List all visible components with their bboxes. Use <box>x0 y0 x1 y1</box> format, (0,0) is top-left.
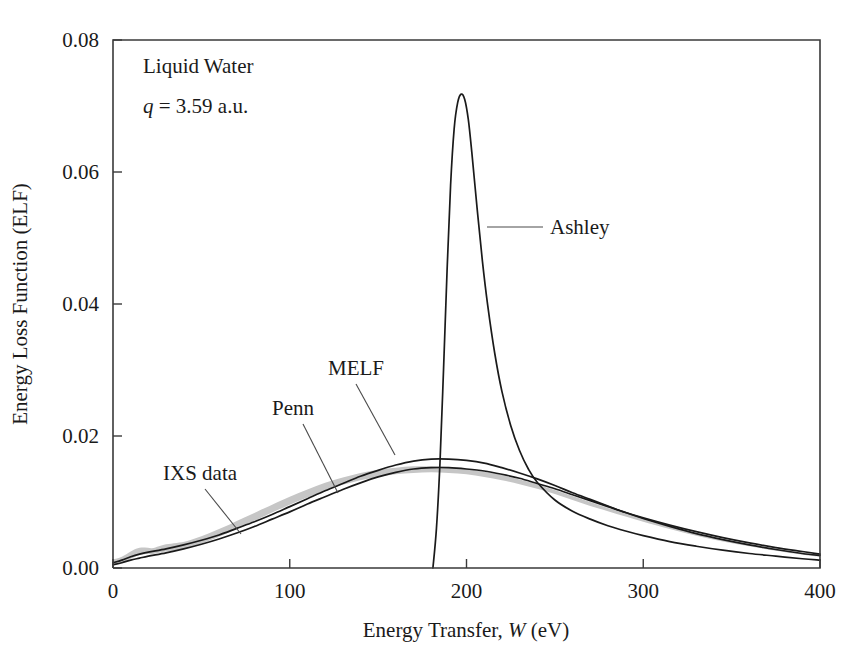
ashley-callout: Ashley <box>487 215 610 239</box>
ixs-data-label: IXS data <box>163 461 238 485</box>
melf-callout: MELF <box>328 356 395 455</box>
x-tick-label: 100 <box>274 579 306 603</box>
penn-leader-line <box>303 424 338 493</box>
penn-callout: Penn <box>272 396 338 493</box>
plot-frame <box>113 40 820 568</box>
x-tick-label: 200 <box>451 579 483 603</box>
curve-group <box>113 94 820 568</box>
y-tick-label: 0.02 <box>62 424 99 448</box>
ashley-curve <box>433 94 820 568</box>
y-tick-label: 0.08 <box>62 28 99 52</box>
x-tick-label: 400 <box>804 579 836 603</box>
y-tick-label: 0.00 <box>62 556 99 580</box>
y-axis-title: Energy Loss Function (ELF) <box>8 183 32 425</box>
melf-leader-line <box>356 384 395 455</box>
ixs-data-leader-line <box>205 489 241 534</box>
x-tick-label: 0 <box>108 579 119 603</box>
axis-frame <box>113 40 820 568</box>
x-axis-title: Energy Transfer, W (eV) <box>363 618 569 642</box>
melf-label: MELF <box>328 356 384 380</box>
momentum-annotation: q = 3.59 a.u. <box>143 94 248 118</box>
y-tick-label: 0.04 <box>62 292 99 316</box>
y-axis-ticks <box>113 40 122 568</box>
penn-label: Penn <box>272 396 315 420</box>
y-tick-label: 0.06 <box>62 160 99 184</box>
elf-chart: 01002003004000.000.020.040.060.08 Energy… <box>0 0 868 660</box>
ashley-label: Ashley <box>550 215 610 239</box>
x-tick-label: 300 <box>628 579 660 603</box>
x-axis-ticks <box>113 559 820 568</box>
figure-container: 01002003004000.000.020.040.060.08 Energy… <box>0 0 868 660</box>
ixs-data-callout: IXS data <box>163 461 241 534</box>
sample-annotation: Liquid Water <box>143 54 253 78</box>
